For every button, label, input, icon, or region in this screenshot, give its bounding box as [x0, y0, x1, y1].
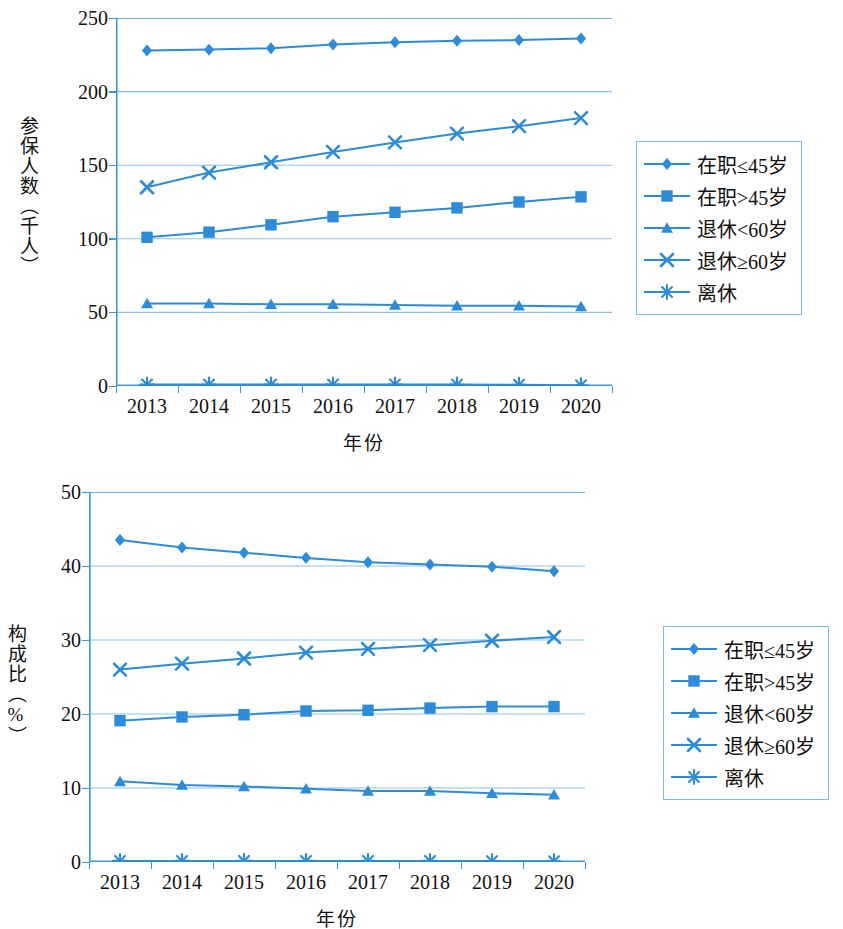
- triangle-marker: [643, 217, 691, 239]
- y-tick-label: 20: [43, 704, 81, 724]
- legend-item-label: 退休≥60岁: [724, 731, 815, 760]
- chart2-x-axis-title: 年份: [89, 904, 585, 929]
- legend-item-label: 在职≤45岁: [724, 635, 815, 664]
- x-tick-mark: [302, 386, 303, 393]
- legend-item-label: 退休≥60岁: [697, 246, 788, 275]
- x-tick-label: 2019: [472, 872, 512, 892]
- chart1-svg: [116, 18, 612, 386]
- legend-item-label: 在职≤45岁: [697, 150, 788, 179]
- asterisk-marker: [643, 281, 691, 303]
- chart-composition-ratio: 构成比（%） 01020304050 201320142015201620172…: [0, 460, 843, 929]
- diamond-marker: [670, 638, 718, 660]
- legend-item[interactable]: 在职≤45岁: [670, 633, 818, 665]
- asterisk-marker: [670, 766, 718, 788]
- legend-item-label: 离休: [724, 763, 764, 792]
- x-tick-label: 2017: [375, 396, 415, 416]
- x-tick-label: 2019: [499, 396, 539, 416]
- x-tick-label: 2018: [437, 396, 477, 416]
- y-tick-label: 30: [43, 630, 81, 650]
- x-tick-label: 2014: [162, 872, 202, 892]
- chart1-plot-area: [116, 18, 612, 386]
- x-tick-mark: [89, 862, 90, 869]
- chart1-x-axis-title: 年份: [116, 428, 612, 455]
- x-tick-mark: [337, 862, 338, 869]
- y-tick-label: 0: [70, 376, 108, 396]
- y-tick-label: 100: [70, 229, 108, 249]
- y-tick-mark: [82, 714, 90, 716]
- legend-item[interactable]: 退休<60岁: [643, 212, 791, 244]
- x-tick-mark: [151, 862, 152, 869]
- y-tick-label: 150: [70, 155, 108, 175]
- x-tick-label: 2016: [313, 396, 353, 416]
- legend-item[interactable]: 退休≥60岁: [643, 244, 791, 276]
- x-tick-label: 2020: [534, 872, 574, 892]
- x-tick-mark: [399, 862, 400, 869]
- legend-item-label: 退休<60岁: [697, 214, 788, 243]
- y-tick-label: 50: [43, 482, 81, 502]
- legend-item[interactable]: 离休: [670, 761, 818, 793]
- chart2-y-axis-title: 构成比（%）: [2, 624, 29, 746]
- y-tick-mark: [109, 165, 117, 167]
- cross-marker: [670, 734, 718, 756]
- y-tick-mark: [82, 640, 90, 642]
- x-tick-mark: [116, 386, 117, 393]
- x-tick-label: 2013: [127, 396, 167, 416]
- x-tick-label: 2017: [348, 872, 388, 892]
- y-tick-mark: [82, 492, 90, 494]
- chart2-svg: [89, 492, 585, 862]
- cross-marker: [643, 249, 691, 271]
- y-tick-label: 40: [43, 556, 81, 576]
- legend-item[interactable]: 退休≥60岁: [670, 729, 818, 761]
- y-tick-mark: [82, 566, 90, 568]
- y-tick-mark: [82, 788, 90, 790]
- x-tick-label: 2015: [224, 872, 264, 892]
- y-tick-label: 0: [43, 852, 81, 872]
- legend-item[interactable]: 退休<60岁: [670, 697, 818, 729]
- x-tick-mark: [585, 862, 586, 869]
- x-tick-label: 2015: [251, 396, 291, 416]
- x-tick-mark: [240, 386, 241, 393]
- x-tick-mark: [461, 862, 462, 869]
- legend-item[interactable]: 在职>45岁: [670, 665, 818, 697]
- legend-item[interactable]: 离休: [643, 276, 791, 308]
- x-tick-mark: [364, 386, 365, 393]
- y-tick-mark: [109, 91, 117, 93]
- x-tick-label: 2013: [100, 872, 140, 892]
- square-marker: [670, 670, 718, 692]
- legend-item-label: 退休<60岁: [724, 699, 815, 728]
- legend-item-label: 在职>45岁: [724, 667, 815, 696]
- y-tick-label: 250: [70, 8, 108, 28]
- x-tick-mark: [213, 862, 214, 869]
- y-tick-mark: [109, 312, 117, 314]
- x-tick-mark: [612, 386, 613, 393]
- x-tick-mark: [275, 862, 276, 869]
- legend-item[interactable]: 在职≤45岁: [643, 148, 791, 180]
- x-tick-mark: [178, 386, 179, 393]
- chart1-legend: 在职≤45岁在职>45岁退休<60岁退休≥60岁离休: [636, 141, 802, 315]
- y-tick-mark: [109, 18, 117, 20]
- y-tick-mark: [109, 238, 117, 240]
- x-tick-label: 2020: [561, 396, 601, 416]
- x-tick-mark: [523, 862, 524, 869]
- chart-participants-count: 参保人数（千人） 050100150200250 201320142015201…: [0, 0, 843, 460]
- triangle-marker: [670, 702, 718, 724]
- legend-item-label: 在职>45岁: [697, 182, 788, 211]
- y-tick-label: 50: [70, 302, 108, 322]
- x-tick-mark: [550, 386, 551, 393]
- square-marker: [643, 185, 691, 207]
- legend-item[interactable]: 在职>45岁: [643, 180, 791, 212]
- x-tick-label: 2014: [189, 396, 229, 416]
- x-tick-label: 2016: [286, 872, 326, 892]
- y-tick-label: 200: [70, 82, 108, 102]
- chart1-y-axis-title: 参保人数（千人）: [14, 116, 41, 276]
- y-tick-label: 10: [43, 778, 81, 798]
- chart2-plot-area: [89, 492, 585, 862]
- x-tick-mark: [488, 386, 489, 393]
- x-tick-label: 2018: [410, 872, 450, 892]
- diamond-marker: [643, 153, 691, 175]
- legend-item-label: 离休: [697, 278, 737, 307]
- x-tick-mark: [426, 386, 427, 393]
- chart2-legend: 在职≤45岁在职>45岁退休<60岁退休≥60岁离休: [663, 626, 829, 800]
